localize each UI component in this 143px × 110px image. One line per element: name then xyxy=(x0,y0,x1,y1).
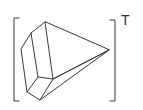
left-bracket xyxy=(14,18,19,101)
polyhedron xyxy=(21,22,109,100)
transpose-superscript: T xyxy=(121,13,130,27)
right-bracket xyxy=(110,20,115,101)
